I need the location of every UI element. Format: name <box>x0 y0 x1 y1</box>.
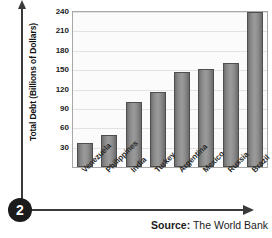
bar <box>174 72 190 167</box>
y-axis-tick-label: 150 <box>56 66 69 74</box>
y-axis-tick-labels: 306090120150180210240 <box>44 11 69 168</box>
bar <box>223 63 239 167</box>
source-note: Source: The World Bank <box>151 219 268 231</box>
x-axis-tick-labels: VenezuelaPhilippinesIndiaTurkeyArgentina… <box>72 168 268 214</box>
y-axis-tick-label: 180 <box>56 47 69 55</box>
bar-series <box>73 12 267 167</box>
y-axis-title: Total Debt (Billions of Dollars) <box>28 2 38 162</box>
bar-chart: Total Debt (Billions of Dollars) 3060901… <box>0 0 272 238</box>
y-axis-tick-label: 120 <box>56 86 69 94</box>
y-axis-tick-label: 90 <box>60 105 69 113</box>
bar <box>247 12 263 167</box>
y-axis-tick-label: 240 <box>56 8 69 16</box>
source-label: Source: <box>151 219 190 231</box>
source-text: The World Bank <box>190 219 268 231</box>
step-number-badge: 2 <box>8 198 32 222</box>
y-axis-tick-label: 210 <box>56 27 69 35</box>
plot-area <box>72 11 268 168</box>
y-axis-tick-label: 60 <box>60 124 69 132</box>
y-axis-tick-label: 30 <box>60 144 69 152</box>
